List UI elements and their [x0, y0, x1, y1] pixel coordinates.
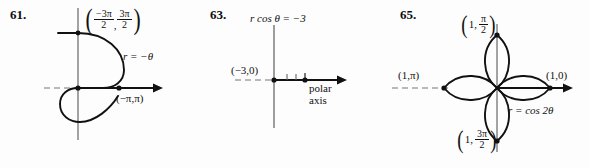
point-marker-left [441, 85, 446, 90]
polar-axis-arrowhead [337, 76, 347, 85]
fraction-minus-3pi-over-2: −3π 2 [94, 9, 114, 30]
fraction-3pi-over-2: 3π 2 [117, 9, 131, 30]
polar-axis-label-line2: axis [309, 95, 332, 107]
point-label-1-3pi-over-2: ( 1, 3π 2 ) [456, 129, 498, 151]
point-label-minus3-0: (−3,0) [231, 64, 258, 76]
polar-axis-arrowhead [563, 84, 573, 93]
figure-63-graph [195, 0, 395, 168]
point-marker-right [116, 85, 121, 90]
right-paren: ) [133, 7, 140, 32]
exercise-figures-page: 61. ( −3π 2 [0, 0, 590, 168]
equation-label-61: r = −θ [123, 50, 153, 62]
spiral-curve [58, 33, 124, 122]
fraction-pi-over-2: π 2 [479, 14, 488, 35]
polar-axis-label-line1: polar [309, 83, 332, 95]
left-paren: ( [85, 7, 92, 32]
label-lead-1: 1, [469, 19, 479, 31]
polar-axis-arrowhead [153, 84, 163, 93]
figure-63: 63. r cos θ = −3 (−3,0) polar axis [195, 0, 395, 168]
label-comma: , [114, 20, 118, 32]
point-label-1-0: (1,0) [546, 69, 567, 81]
equation-label-65: r = cos 2θ [508, 104, 554, 116]
point-label-1-pi-over-2: ( 1, π 2 ) [460, 14, 497, 36]
point-label-minus-pi-pi: (−π,π) [116, 92, 143, 104]
left-paren: ( [461, 14, 467, 35]
point-label-1-pi: (1,π) [398, 69, 419, 81]
point-marker-unit [302, 77, 307, 82]
polar-axis-label: polar axis [309, 83, 332, 106]
left-paren: ( [457, 129, 463, 150]
point-marker-origin [75, 85, 80, 90]
label-lead-1: 1, [465, 134, 475, 146]
point-marker-top [76, 31, 81, 36]
point-marker-right [547, 85, 552, 90]
right-paren: ) [490, 129, 496, 150]
right-paren: ) [489, 14, 495, 35]
point-label-minus-3pi-over-2: ( −3π 2 , 3π 2 ) [84, 7, 142, 32]
fraction-3pi-over-2: 3π 2 [475, 129, 489, 150]
figure-61: 61. ( −3π 2 [0, 0, 200, 168]
equation-label-63: r cos θ = −3 [250, 12, 306, 24]
point-marker-minus3-0 [271, 77, 276, 82]
figure-65: 65. ( [390, 0, 590, 168]
